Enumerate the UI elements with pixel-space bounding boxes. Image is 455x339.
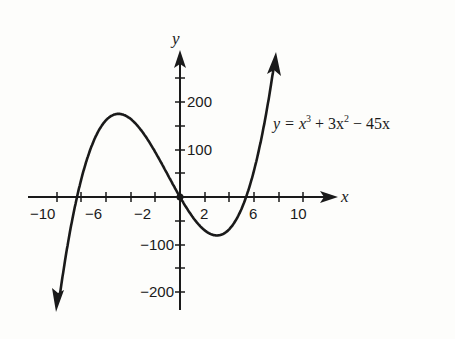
equation-label: y = x3 + 3x2 − 45x xyxy=(271,113,390,133)
y-tick-label: −100 xyxy=(140,236,174,253)
y-axis-label: y xyxy=(170,29,180,48)
cubic-curve xyxy=(60,65,274,294)
x-tick-label: 2 xyxy=(200,205,208,222)
x-tick-label: −2 xyxy=(134,205,151,222)
y-tick-label: −200 xyxy=(140,283,174,300)
x-tick-label: 6 xyxy=(249,205,257,222)
cubic-function-graph: −10 −6 −2 2 6 10 x 200 100 −100 −200 y xyxy=(0,0,455,339)
y-tick-label: 200 xyxy=(187,93,212,110)
y-tick-label: 100 xyxy=(187,141,212,158)
curve-arrow-down-icon xyxy=(52,288,64,312)
x-tick-label: −6 xyxy=(85,205,102,222)
x-axis-label: x xyxy=(340,187,349,206)
x-tick-label: 10 xyxy=(290,205,307,222)
y-axis: 200 100 −100 −200 y xyxy=(140,29,212,310)
x-tick-label: −10 xyxy=(30,205,55,222)
